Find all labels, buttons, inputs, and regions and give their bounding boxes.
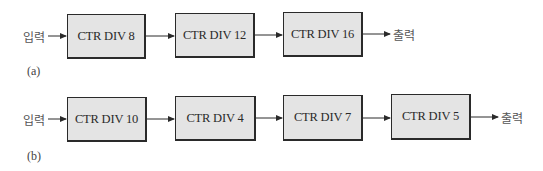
output-label-b: 출력 [501, 109, 523, 127]
output-label-a: 출력 [393, 26, 415, 44]
counter-block-div5: CTR DIV 5 [391, 94, 471, 140]
block-label: CTR DIV 4 [186, 111, 243, 126]
counter-block-div12: CTR DIV 12 [175, 13, 255, 58]
block-label: CTR DIV 12 [183, 28, 246, 43]
figure-label-a: (a) [27, 64, 40, 79]
input-label-b: 입력 [23, 111, 45, 129]
counter-block-div16: CTR DIV 16 [283, 12, 363, 57]
block-label: CTR DIV 16 [291, 27, 354, 42]
counter-block-div7: CTR DIV 7 [283, 95, 363, 141]
block-label: CTR DIV 5 [402, 109, 459, 124]
counter-block-div4: CTR DIV 4 [175, 96, 256, 141]
figure-label-b: (b) [27, 149, 41, 164]
counter-block-div10: CTR DIV 10 [67, 97, 147, 142]
block-label: CTR DIV 7 [294, 110, 351, 125]
counter-block-div8: CTR DIV 8 [67, 14, 146, 59]
input-label-a: 입력 [23, 28, 45, 46]
block-label: CTR DIV 10 [75, 112, 138, 127]
block-label: CTR DIV 8 [77, 29, 134, 44]
